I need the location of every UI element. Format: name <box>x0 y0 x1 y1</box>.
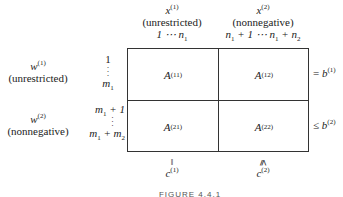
row2-range-bottom-sub2: 2 <box>122 134 126 142</box>
figure-caption: FIGURE 4.4.1 <box>150 190 230 197</box>
row-header-w1: w(1) (unrestricted) <box>0 60 76 84</box>
row2-sup: (2) <box>38 112 46 120</box>
rhs-b1: = b(1) <box>313 67 336 79</box>
cell-a12: A(12) <box>219 49 309 100</box>
row2-type: (nonnegative) <box>0 125 76 137</box>
row1-var: w <box>30 60 37 72</box>
row2-range-top: m <box>95 103 103 115</box>
rhs-b2-sup: (2) <box>327 118 335 126</box>
row1-type: (unrestricted) <box>0 72 76 84</box>
row1-range-bottom-sub: 1 <box>110 84 114 92</box>
row2-range-bottom: m <box>89 127 97 139</box>
cell-a21-var: A <box>164 121 171 133</box>
row2-range-top-rest: + 1 <box>107 103 125 115</box>
col2-type: (nonnegative) <box>217 16 309 28</box>
rhs-b1-relation: = <box>313 67 322 79</box>
cell-a12-var: A <box>255 69 262 81</box>
cell-a11-var: A <box>164 69 171 81</box>
row1-range: 1 ··· m1 <box>96 53 120 89</box>
cell-a22-var: A <box>255 121 262 133</box>
col2-sup: (2) <box>261 3 269 11</box>
row2-range: m1 + 1 ··· m1 + m2 <box>80 103 125 139</box>
cell-a11: A(11) <box>128 49 218 100</box>
bottom-c1: ‖ c(1) <box>147 158 197 179</box>
rhs-b1-sup: (1) <box>327 66 335 74</box>
column-header-x2: x(2) (nonnegative) n1 + 1 ⋯ n1 + n2 <box>217 4 309 40</box>
block-matrix: A(11) A(12) A(21) A(22) <box>127 48 309 152</box>
cell-a21: A(21) <box>128 101 218 152</box>
col1-type: (unrestricted) <box>127 16 217 28</box>
rhs-b2: ≤ b(2) <box>313 119 335 131</box>
bottom-c1-sup: (1) <box>170 166 178 174</box>
col1-range-sub: 1 <box>184 35 188 43</box>
col2-range-b: + 1 ⋯ n <box>235 28 275 40</box>
col2-range-c-sub: 2 <box>297 35 301 43</box>
vertical-dots-icon: ··· <box>96 65 120 77</box>
row2-range-bottom-mid: + m <box>101 127 122 139</box>
row-header-w2: w(2) (nonnegative) <box>0 113 76 137</box>
col2-range: n1 + 1 ⋯ n1 + n2 <box>217 28 309 40</box>
rhs-b2-relation: ≤ <box>313 119 322 131</box>
col1-sup: (1) <box>170 3 178 11</box>
col2-range-c: + n <box>279 28 297 40</box>
bottom-c2-relation: ⩽ <box>259 138 268 188</box>
bottom-c2: ⩽ c(2) <box>238 158 288 179</box>
col1-range: 1 ⋯ n <box>157 28 185 40</box>
row1-sup: (1) <box>38 59 46 67</box>
row2-var: w <box>30 113 37 125</box>
column-header-x1: x(1) (unrestricted) 1 ⋯ n1 <box>127 4 217 40</box>
